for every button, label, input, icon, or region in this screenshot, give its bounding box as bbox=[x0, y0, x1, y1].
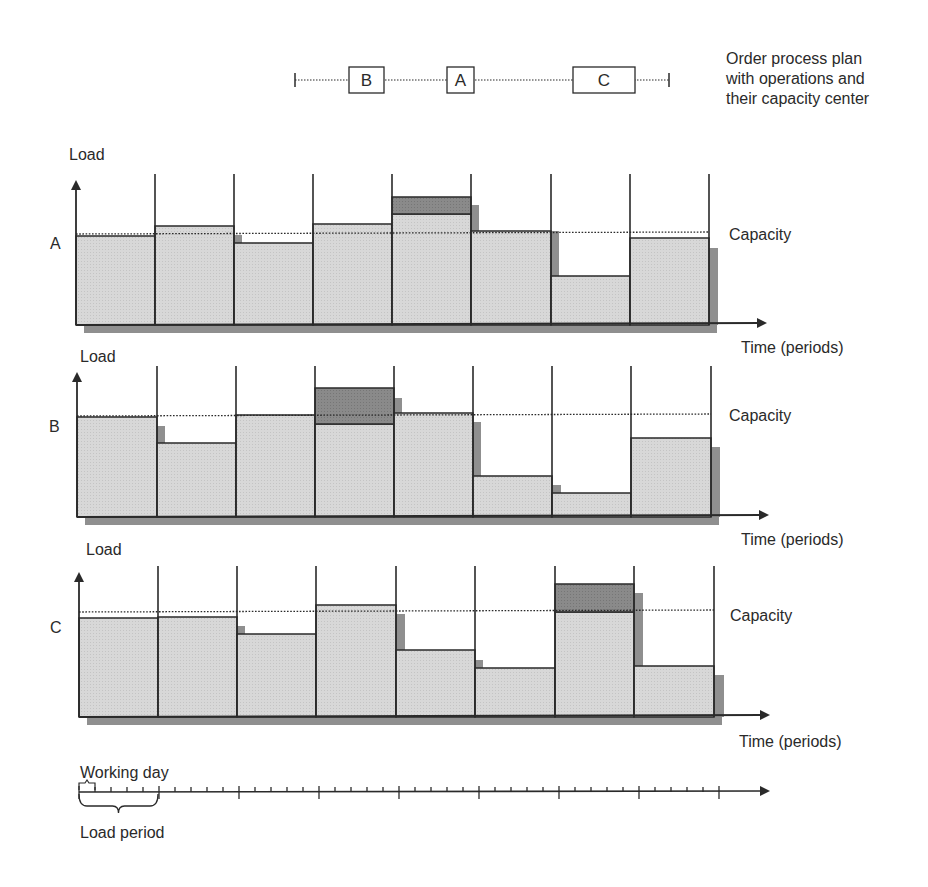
time-axis-label-b: Time (periods) bbox=[741, 531, 844, 548]
operation-label-c: C bbox=[598, 71, 610, 90]
operation-label-b: B bbox=[361, 71, 372, 90]
load-bar-period-6 bbox=[475, 668, 555, 717]
load-bar-period-2 bbox=[158, 617, 237, 717]
load-bar-period-5 bbox=[392, 214, 471, 325]
step-shadow bbox=[711, 447, 720, 517]
overload-bar-period-7 bbox=[555, 584, 634, 612]
process-plan-caption-line-1: Order process plan bbox=[726, 50, 862, 67]
process-plan-caption-line-2: with operations and bbox=[725, 70, 865, 87]
load-chart-center-b bbox=[77, 366, 767, 525]
load-bar-period-3 bbox=[236, 415, 315, 517]
load-capacity-diagram: BAC Order process plan with operations a… bbox=[0, 0, 928, 887]
load-chart-center-a bbox=[76, 174, 765, 333]
overload-bar-period-4 bbox=[315, 388, 394, 424]
load-bar-period-7 bbox=[552, 493, 631, 517]
capacity-label-a: Capacity bbox=[729, 226, 791, 243]
load-axis-label-c: Load bbox=[86, 541, 122, 558]
step-shadow bbox=[709, 248, 718, 325]
load-bar-period-2 bbox=[157, 443, 236, 517]
working-day-timeline bbox=[79, 780, 768, 813]
load-bar-period-7 bbox=[555, 612, 634, 717]
working-day-label: Working day bbox=[80, 764, 169, 781]
load-bar-period-8 bbox=[631, 438, 711, 517]
load-bar-period-7 bbox=[551, 276, 630, 325]
load-bar-period-6 bbox=[471, 231, 551, 325]
center-label-a: A bbox=[50, 235, 61, 252]
load-bar-period-5 bbox=[396, 650, 475, 717]
load-chart-center-c bbox=[79, 566, 768, 725]
baseline-shadow bbox=[87, 717, 722, 725]
capacity-label-b: Capacity bbox=[729, 407, 791, 424]
load-bar-period-6 bbox=[473, 476, 552, 517]
load-bar-period-2 bbox=[155, 226, 234, 325]
load-bar-period-8 bbox=[634, 666, 714, 717]
process-plan-caption-line-3: their capacity center bbox=[726, 90, 870, 107]
baseline-shadow bbox=[84, 325, 717, 333]
load-axis-label-b: Load bbox=[80, 348, 116, 365]
load-bar-period-1 bbox=[77, 417, 157, 517]
time-axis-label-c: Time (periods) bbox=[739, 733, 842, 750]
load-bar-period-8 bbox=[630, 238, 709, 325]
order-process-plan: BAC bbox=[295, 67, 669, 93]
step-shadow bbox=[714, 675, 724, 717]
load-axis-label-a: Load bbox=[69, 146, 105, 163]
capacity-label-c: Capacity bbox=[730, 607, 792, 624]
load-bar-period-3 bbox=[234, 243, 313, 325]
baseline-shadow bbox=[85, 517, 719, 525]
load-bar-period-1 bbox=[76, 236, 155, 325]
overload-bar-period-5 bbox=[392, 197, 471, 214]
load-period-brace-icon bbox=[79, 794, 158, 813]
load-bar-period-3 bbox=[237, 634, 316, 717]
operation-label-a: A bbox=[455, 71, 467, 90]
timeline-arrow-icon bbox=[79, 791, 768, 792]
load-bar-period-1 bbox=[79, 618, 158, 717]
load-bar-period-5 bbox=[394, 413, 473, 517]
load-bar-period-4 bbox=[315, 424, 394, 517]
load-bar-period-4 bbox=[313, 224, 392, 325]
time-axis-label-a: Time (periods) bbox=[741, 339, 844, 356]
center-label-b: B bbox=[49, 418, 60, 435]
center-label-c: C bbox=[50, 619, 62, 636]
load-bar-period-4 bbox=[316, 605, 396, 717]
load-period-label: Load period bbox=[80, 824, 165, 841]
working-day-brace-icon bbox=[79, 780, 95, 790]
